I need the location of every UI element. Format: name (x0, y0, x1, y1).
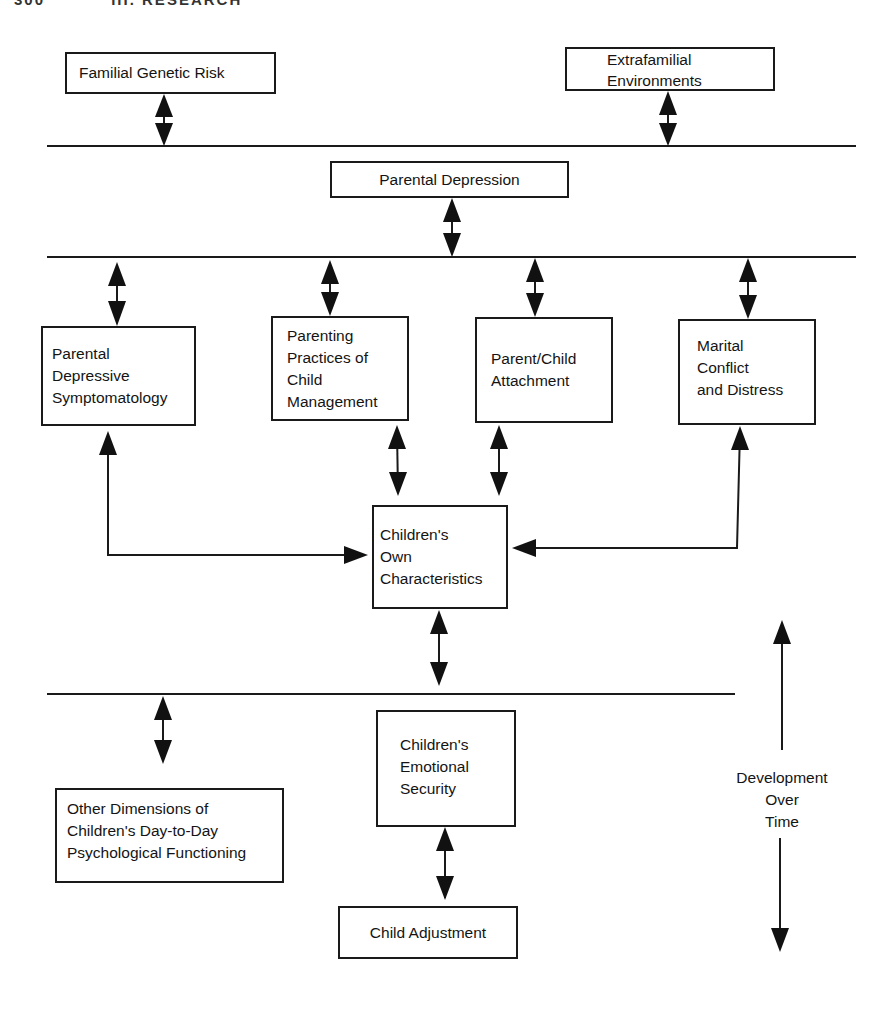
node-label: Extrafamilial Environments (607, 49, 702, 91)
node-label: Child Adjustment (370, 922, 486, 944)
node-familial-genetic-risk: Familial Genetic Risk (65, 52, 276, 94)
development-over-time-label: Development Over Time (722, 767, 842, 833)
node-other-dimensions: Other Dimensions of Children's Day-to-Da… (55, 788, 284, 883)
node-label: Children's Emotional Security (400, 734, 469, 800)
node-childrens-own-characteristics: Children's Own Characteristics (372, 505, 508, 609)
node-label: Other Dimensions of Children's Day-to-Da… (67, 798, 246, 864)
node-parental-depressive-symptomatology: Parental Depressive Symptomatology (41, 326, 196, 426)
node-label: Children's Own Characteristics (380, 524, 483, 590)
node-label: Parent/Child Attachment (491, 348, 576, 392)
node-child-adjustment: Child Adjustment (338, 906, 518, 959)
node-extrafamilial-environments: Extrafamilial Environments (565, 47, 775, 91)
node-marital-conflict: Marital Conflict and Distress (678, 319, 816, 425)
node-parent-child-attachment: Parent/Child Attachment (475, 317, 613, 423)
node-label: Familial Genetic Risk (79, 62, 225, 84)
node-childrens-emotional-security: Children's Emotional Security (376, 710, 516, 827)
node-label: Parenting Practices of Child Management (287, 325, 377, 413)
node-label: Parental Depressive Symptomatology (52, 343, 167, 409)
node-parenting-practices: Parenting Practices of Child Management (271, 316, 409, 421)
node-label: Marital Conflict and Distress (697, 335, 783, 401)
node-parental-depression: Parental Depression (330, 161, 569, 198)
node-label: Parental Depression (379, 169, 519, 191)
